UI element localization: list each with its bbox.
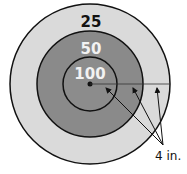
ring-label-50: 50 — [81, 40, 102, 58]
ring-label-25: 25 — [81, 13, 102, 31]
ring-label-100: 100 — [74, 65, 105, 83]
measure-label: 4 in. — [155, 149, 181, 163]
target-diagram: 25 50 100 4 in. — [0, 0, 187, 174]
